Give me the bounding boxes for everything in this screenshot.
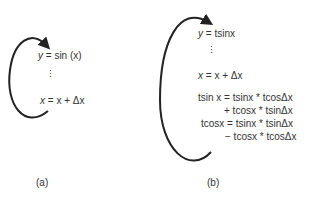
eq-x-increment: x = x + Δx (198, 71, 242, 81)
ellipsis: ⋮ (207, 46, 216, 55)
eq-y-tsin: y = tsinx (198, 29, 235, 39)
eq-tcos-1: tcosx = tsinx * tsinΔx (201, 119, 293, 129)
eq-y-sin: y = sin (x) (38, 51, 82, 61)
label-a: (a) (36, 178, 48, 188)
eq-x-increment: x = x + Δx (40, 96, 84, 106)
eq-tcos-2: − tcosx * tcosΔx (225, 132, 296, 142)
loop-arrow-b (160, 18, 211, 161)
ellipsis: ⋮ (46, 70, 55, 79)
eq-tsin-1: tsin x = tsinx * tcosΔx (198, 93, 293, 103)
label-b: (b) (207, 178, 219, 188)
eq-tsin-2: + tcosx * tsinΔx (224, 106, 293, 116)
